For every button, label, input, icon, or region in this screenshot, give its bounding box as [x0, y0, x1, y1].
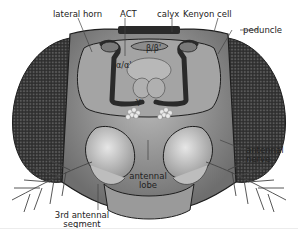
label-kenyon-cell: Kenyon cell: [183, 10, 232, 19]
label-beta: β/β': [146, 44, 161, 53]
label-calyx: calyx: [157, 10, 179, 19]
label-peduncle: peduncle: [243, 26, 282, 35]
label-antennal-nerve-line2: nerve: [246, 155, 284, 164]
label-antennal-lobe: antennal lobe: [124, 172, 172, 190]
label-antennal-nerve: antennal nerve: [246, 146, 284, 164]
bottom-divider: [0, 228, 298, 229]
label-gamma: γ: [136, 97, 141, 106]
label-act: ACT: [120, 10, 137, 19]
fly-head-illustration: [0, 0, 298, 234]
label-third-antennal-segment: 3rd antennal segment: [52, 211, 112, 229]
label-antennal-lobe-line2: lobe: [124, 181, 172, 190]
label-lateral-horn: lateral horn: [53, 10, 102, 19]
label-alpha: α/α': [116, 61, 131, 70]
